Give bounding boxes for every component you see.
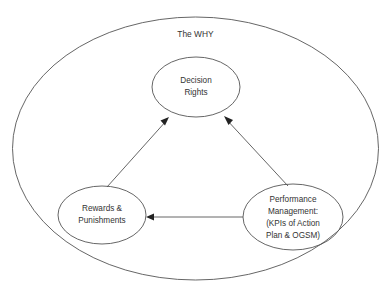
node-decision-rights[interactable]: Decision Rights [152, 57, 240, 117]
arrow-rewards-to-decision-head [161, 117, 170, 126]
node-rewards-punishments-ellipse[interactable] [58, 186, 146, 244]
node-performance-management-label-line-4: Plan & OGSM) [266, 231, 320, 240]
outer-container-ellipse [13, 17, 379, 280]
arrow-performance-to-decision-head [224, 116, 233, 125]
node-rewards-punishments-label-line-2: Punishments [78, 216, 125, 225]
node-decision-rights-label-line-1: Decision [180, 76, 212, 85]
why-framework-diagram: The WHY Decision Rights Rewards & Punish… [0, 0, 391, 295]
node-rewards-punishments[interactable]: Rewards & Punishments [58, 186, 146, 244]
diagram-canvas: The WHY Decision Rights Rewards & Punish… [0, 0, 391, 295]
arrow-rewards-to-decision [107, 117, 169, 187]
arrow-performance-to-decision [224, 116, 288, 186]
node-decision-rights-ellipse[interactable] [152, 57, 240, 117]
arrow-rewards-to-decision-line [107, 120, 167, 187]
arrow-performance-to-rewards-head [146, 214, 154, 221]
node-performance-management[interactable]: Performance Management: (KPIs of Action … [243, 184, 343, 250]
node-performance-management-label-line-2: Management: [268, 207, 318, 216]
arrow-performance-to-decision-line [226, 119, 288, 186]
node-performance-management-label-line-1: Performance [270, 195, 317, 204]
diagram-title: The WHY [177, 29, 214, 39]
node-rewards-punishments-label-line-1: Rewards & [82, 204, 123, 213]
node-performance-management-label-line-3: (KPIs of Action [266, 219, 320, 228]
arrow-performance-to-rewards [146, 214, 243, 221]
node-decision-rights-label-line-2: Rights [184, 88, 207, 97]
